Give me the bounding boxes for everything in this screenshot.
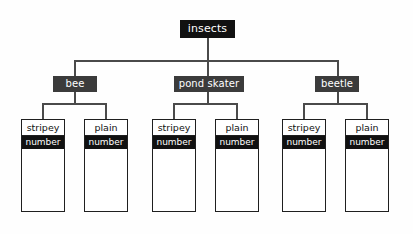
leaf-box-bee-stripey: stripey number — [21, 119, 65, 212]
connector-bus-to-pond-skater — [207, 60, 209, 76]
connector-bee-to-stripey — [42, 103, 44, 119]
leaf-box-bee-plain: plain number — [84, 119, 128, 212]
connector-beetle-bus — [303, 103, 368, 105]
leaf-box-pond-skater-stripey: stripey number — [152, 119, 196, 212]
connector-bee-stem — [74, 92, 76, 103]
connector-pond-skater-to-plain — [236, 103, 238, 119]
connector-beetle-stem — [337, 92, 339, 103]
connector-root-stem — [207, 38, 209, 60]
connector-beetle-to-stripey — [303, 103, 305, 119]
leaf-subtitle: number — [216, 136, 258, 149]
connector-bus-to-beetle — [337, 60, 339, 76]
leaf-title: plain — [85, 120, 127, 136]
leaf-box-pond-skater-plain: plain number — [215, 119, 259, 212]
node-insects: insects — [180, 20, 235, 38]
leaf-title: stripey — [153, 120, 195, 136]
node-beetle: beetle — [315, 76, 359, 92]
leaf-box-beetle-stripey: stripey number — [282, 119, 326, 212]
leaf-title: stripey — [283, 120, 325, 136]
node-pond-skater: pond skater — [174, 76, 244, 92]
connector-beetle-to-plain — [366, 103, 368, 119]
leaf-title: stripey — [22, 120, 64, 136]
leaf-subtitle: number — [85, 136, 127, 149]
leaf-subtitle: number — [283, 136, 325, 149]
leaf-subtitle: number — [22, 136, 64, 149]
node-bee: bee — [53, 76, 97, 92]
tree-diagram: insects bee pond skater beetle stripey n… — [0, 0, 413, 234]
leaf-subtitle: number — [346, 136, 388, 149]
connector-bus-to-bee — [74, 60, 76, 76]
leaf-title: plain — [346, 120, 388, 136]
connector-pond-skater-to-stripey — [173, 103, 175, 119]
connector-bee-to-plain — [105, 103, 107, 119]
connector-bee-bus — [42, 103, 106, 105]
leaf-box-beetle-plain: plain number — [345, 119, 389, 212]
connector-pond-skater-stem — [207, 92, 209, 103]
leaf-title: plain — [216, 120, 258, 136]
connector-pond-skater-bus — [173, 103, 238, 105]
leaf-subtitle: number — [153, 136, 195, 149]
